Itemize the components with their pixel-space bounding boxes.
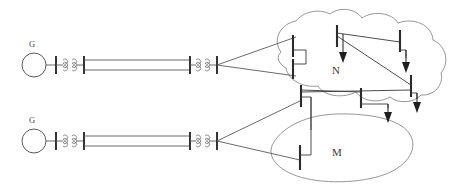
drop-n-bottom-center (361, 104, 388, 108)
feeder-top-to-n-upper (217, 37, 296, 65)
tie-n-topcenter-to-topright (337, 33, 400, 42)
xf-bottom-right-winding-1 (196, 135, 201, 147)
power-system-diagram: N M G (0, 0, 455, 187)
load-arrow-n-bottom-center (384, 104, 392, 123)
xf-bottom-right-winding-2 (205, 135, 210, 147)
transformer-top-right (190, 59, 217, 71)
xf-top-left-winding-1 (63, 59, 68, 71)
network-m-group: M (271, 114, 413, 182)
transformer-bottom-left (56, 135, 84, 147)
network-m-oval-outline (271, 114, 413, 182)
transformer-top-left (56, 59, 84, 71)
network-n-group: N (277, 9, 446, 101)
feeder-bottom-to-m (217, 141, 300, 160)
network-n-label: N (332, 64, 340, 76)
xf-top-left-winding-2 (72, 59, 77, 71)
xf-bottom-left-winding-2 (72, 135, 77, 147)
xf-bottom-left-winding-1 (63, 135, 68, 147)
generator-top-label: G (29, 39, 35, 49)
network-n-cloud-outline (277, 9, 446, 101)
network-m-label: M (332, 146, 342, 158)
xf-top-right-winding-2 (205, 59, 210, 71)
xf-top-right-winding-1 (196, 59, 201, 71)
tie-n-bottomleft-bracket (301, 97, 311, 130)
generator-top-symbol (22, 53, 46, 77)
generator-bottom-label: G (29, 115, 35, 125)
load-arrows-group (339, 34, 421, 123)
transmission-line-bottom (84, 136, 190, 146)
load-arrow-n-top-right (402, 50, 410, 73)
bottom-generation-branch: G (22, 100, 302, 160)
transmission-line-top (84, 60, 190, 70)
feeder-bottom-to-n (217, 100, 302, 141)
generator-bottom-symbol (22, 129, 46, 153)
network-m-internal (300, 97, 311, 170)
top-generation-branch: G (22, 37, 296, 77)
transformer-bottom-right (190, 135, 217, 147)
diagram-canvas: N M G (0, 0, 455, 187)
tie-n-left-pair (293, 50, 306, 64)
